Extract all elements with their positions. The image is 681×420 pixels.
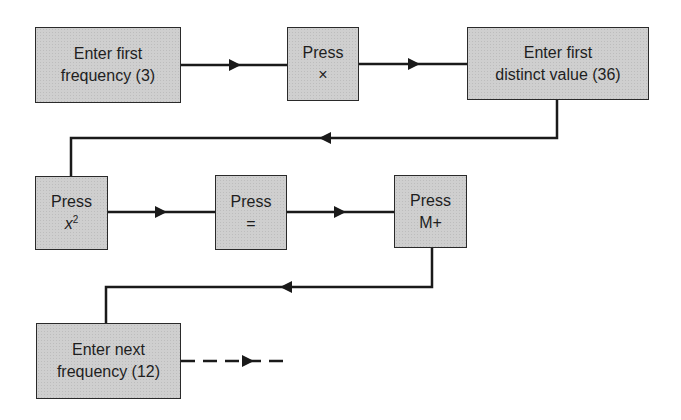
node-text: frequency (12) <box>57 361 160 383</box>
arrow-left-icon <box>280 281 292 293</box>
node-text: = <box>246 213 255 235</box>
arrow-left-icon <box>319 132 331 144</box>
node-enter-first-distinct-value: Enter first distinct value (36) <box>467 27 649 100</box>
node-text: frequency (3) <box>61 65 155 87</box>
arrow-right-icon <box>242 355 254 367</box>
node-text: Press <box>51 191 92 213</box>
node-text: M+ <box>419 212 442 234</box>
node-press-m-plus: Press M+ <box>394 175 467 248</box>
arrow-right-icon <box>229 59 241 71</box>
node-text-math: x2 <box>65 213 79 235</box>
node-enter-next-frequency: Enter next frequency (12) <box>36 323 181 399</box>
edge-n3-n4 <box>71 100 557 176</box>
math-exponent: 2 <box>73 214 79 225</box>
node-text: × <box>318 64 327 86</box>
arrow-right-icon <box>155 206 167 218</box>
node-press-equals: Press = <box>215 175 287 250</box>
math-base: x <box>65 215 73 232</box>
node-text: Enter first <box>74 43 142 65</box>
node-press-multiply: Press × <box>287 27 359 101</box>
node-text: Enter first <box>524 42 592 64</box>
arrow-right-icon <box>334 206 346 218</box>
node-text: Press <box>231 191 272 213</box>
node-text: Press <box>410 190 451 212</box>
node-text: Enter next <box>72 339 145 361</box>
node-text: Press <box>303 42 344 64</box>
arrow-right-icon <box>408 58 420 70</box>
edge-n6-n7 <box>106 248 432 323</box>
node-enter-first-frequency: Enter first frequency (3) <box>35 27 181 103</box>
node-press-x-squared: Press x2 <box>35 176 108 250</box>
node-text: distinct value (36) <box>495 64 620 86</box>
